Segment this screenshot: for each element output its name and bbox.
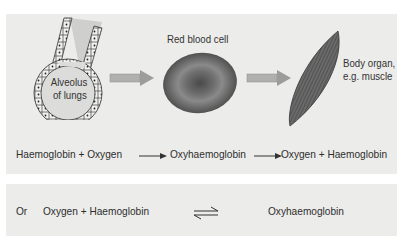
red-blood-cell-label: Red blood cell	[167, 33, 228, 45]
red-blood-cell-illustration	[160, 48, 240, 118]
eq-or-prefix: Or	[16, 205, 27, 217]
eq-result-oxygen: Oxygen	[281, 148, 316, 160]
body-organ-label: Body organ, e.g. muscle	[343, 57, 395, 83]
alveolus-illustration	[0, 0, 110, 120]
eq-reactant-haemoglobin: Haemoglobin	[16, 148, 76, 160]
eq-reversible-right: Oxyhaemoglobin	[268, 205, 344, 217]
eq-plus: +	[78, 148, 84, 160]
eq-reversible-left: Oxygen + Haemoglobin	[43, 205, 149, 217]
eq-reactant-oxygen: Oxygen	[87, 148, 122, 160]
eq-product-oxyhaemoglobin: Oxyhaemoglobin	[170, 148, 246, 160]
body-organ-label-line1: Body organ,	[343, 57, 395, 70]
reaction-arrow-icon	[253, 152, 283, 160]
muscle-illustration	[284, 28, 344, 128]
eq-result-haemoglobin: Haemoglobin	[327, 148, 387, 160]
alveolus-label: Alveolus of lungs	[47, 76, 91, 102]
equation-result: Oxygen + Haemoglobin	[281, 148, 387, 160]
arrow-right-icon	[108, 70, 158, 86]
body-organ-label-line2: e.g. muscle	[343, 70, 395, 83]
equilibrium-arrows-icon	[192, 206, 222, 220]
alveolus-label-line2: of lungs	[47, 89, 91, 102]
eq-plus: +	[319, 148, 325, 160]
reaction-arrow-icon	[138, 152, 168, 160]
alveolus-label-line1: Alveolus	[47, 76, 91, 89]
equation-forward: Haemoglobin + Oxygen	[16, 148, 122, 160]
